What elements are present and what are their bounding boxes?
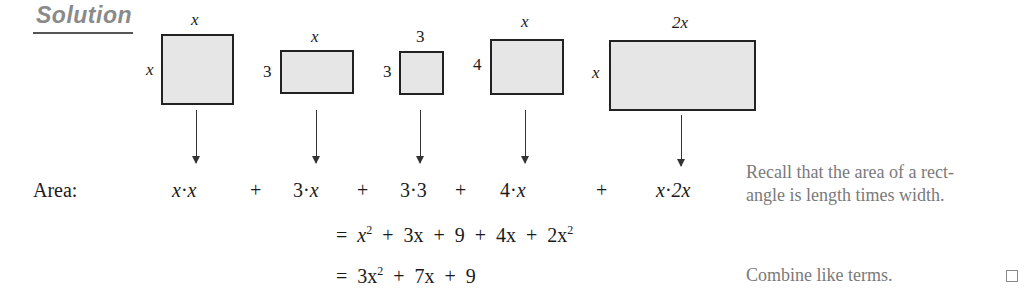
factor: x (310, 179, 319, 201)
equals-sign: = (336, 265, 347, 287)
factor: 3 (417, 179, 427, 201)
term: 4x (496, 224, 516, 246)
dot: · (181, 179, 188, 201)
rectangle-x-by-2x (609, 40, 756, 111)
factor: x (517, 179, 526, 201)
equals-sign: = (336, 224, 347, 246)
dot: · (665, 179, 672, 201)
rectangle-x-by-x (161, 34, 234, 105)
down-arrow-icon (196, 110, 197, 163)
note-combine: Combine like terms. (746, 265, 892, 286)
plus-sign: + (455, 179, 466, 202)
exponent: 2 (377, 264, 383, 278)
plus-sign: + (445, 265, 456, 287)
rect3-side-label: 3 (383, 62, 392, 82)
term: 9 (455, 224, 465, 246)
factor: 3 (400, 179, 410, 201)
term: 3x (403, 224, 423, 246)
step-expanded: = x2 + 3x + 9 + 4x + 2x2 (336, 223, 573, 247)
down-arrow-icon (420, 110, 421, 163)
plus-sign: + (475, 224, 486, 246)
factor: 2x (672, 179, 691, 201)
plus-sign: + (382, 224, 393, 246)
rect1-side-label: x (146, 60, 154, 80)
dot: · (410, 179, 417, 201)
term-3-times-3: 3·3 (400, 179, 427, 202)
exponent: 2 (567, 223, 573, 237)
solution-heading: Solution (36, 2, 132, 29)
term: 9 (466, 265, 476, 287)
term-3-times-x: 3·x (293, 179, 319, 202)
note-recall-line2: angle is length times width. (746, 185, 944, 206)
dot: · (510, 179, 517, 201)
factor: x (172, 179, 181, 201)
term: 7x (415, 265, 435, 287)
down-arrow-icon (681, 115, 682, 166)
dot: · (303, 179, 310, 201)
term-x-times-x: x·x (172, 179, 196, 202)
plus-sign: + (526, 224, 537, 246)
rectangle-4-by-x (490, 39, 564, 95)
exponent: 2 (366, 223, 372, 237)
plus-sign: + (596, 179, 607, 202)
rect2-side-label: 3 (263, 62, 272, 82)
term: 2x (547, 224, 567, 246)
plus-sign: + (250, 179, 261, 202)
term-4-times-x: 4·x (500, 179, 526, 202)
rectangle-3-by-x (280, 50, 354, 94)
area-label: Area: (33, 179, 77, 202)
term: 3x (357, 265, 377, 287)
rect4-side-label: 4 (473, 55, 482, 75)
heading-underline (33, 32, 133, 34)
step-combined: = 3x2 + 7x + 9 (336, 264, 476, 288)
factor: x (656, 179, 665, 201)
plus-sign: + (393, 265, 404, 287)
rect3-top-label: 3 (416, 27, 425, 47)
end-of-solution-box-icon (1006, 270, 1018, 282)
rect5-top-label: 2x (672, 13, 688, 33)
down-arrow-icon (525, 110, 526, 163)
note-recall-line1: Recall that the area of a rect- (746, 162, 954, 183)
rect4-top-label: x (521, 12, 529, 32)
plus-sign: + (433, 224, 444, 246)
factor: 4 (500, 179, 510, 201)
term-x-times-2x: x·2x (656, 179, 690, 202)
factor: x (188, 179, 197, 201)
plus-sign: + (357, 179, 368, 202)
rectangle-3-by-3 (399, 51, 444, 95)
rect1-top-label: x (191, 10, 199, 30)
down-arrow-icon (316, 110, 317, 163)
factor: 3 (293, 179, 303, 201)
rect5-side-label: x (592, 63, 600, 83)
rect2-top-label: x (311, 27, 319, 47)
term: x (357, 224, 366, 246)
